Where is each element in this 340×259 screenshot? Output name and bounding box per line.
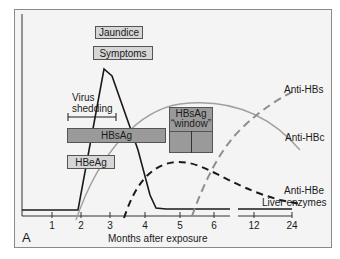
jaundice-box: Jaundice [95,26,143,39]
x-axis-title: Months after exposure [108,234,208,244]
x-ticks [52,212,292,218]
hbsag-bar: HBsAg [67,128,166,143]
anti-hbc-label: Anti-HBc [285,133,324,143]
anti-hbe-label: Anti-HBe [284,186,324,196]
tick-label: 6 [211,220,217,231]
virus-shedding-bracket [68,113,116,121]
window-divider [191,131,192,153]
tick-label: 2 [78,220,84,231]
tick-label: 24 [286,220,297,231]
anti-hbs-label: Anti-HBs [284,85,323,95]
virus-shedding-label-2: shedding [72,104,113,114]
tick-label: 4 [142,220,148,231]
tick-label: 3 [107,220,113,231]
virus-shedding-label: Virus [72,93,95,103]
tick-label: 12 [248,220,259,231]
panel-label: A [22,231,31,244]
tick-label: 5 [177,220,183,231]
tick-label: 1 [49,220,55,231]
hbeag-box: HBeAg [67,155,115,169]
symptoms-box: Symptoms [93,46,153,60]
hbsag-window-box: HBsAg “window” [169,107,213,153]
liver-enzymes-label: Liver enzymes [262,198,326,208]
